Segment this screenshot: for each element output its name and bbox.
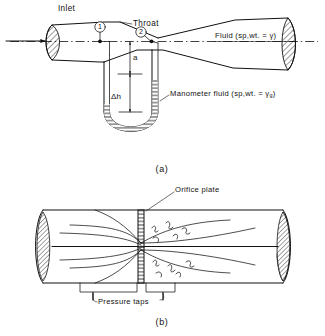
venturi-bottom-wall-diverging [152, 50, 288, 70]
turbulence-squiggle-l4 [156, 272, 162, 277]
turbulence-squiggle-u2 [166, 222, 173, 229]
manometer-fluid-leader-line [160, 95, 169, 101]
streamline-upper-1b [141, 220, 230, 243]
station-2-stem [145, 36, 150, 41]
figure-page: 1 2 Inlet Throat Fluid (sp,wt. = γ) [0, 0, 325, 336]
venturi-figure: 1 2 Inlet Throat Fluid (sp,wt. = γ) [6, 4, 318, 174]
turbulence-squiggle-l2 [168, 265, 175, 272]
venturi-bottom-wall-left [52, 60, 104, 62]
manometer-fluid-bend [104, 112, 158, 132]
orifice-plate-label: Orifice plate [175, 185, 219, 194]
station-1-number: 1 [98, 23, 102, 30]
pressure-taps-label: Pressure taps [98, 297, 149, 306]
turbulence-squiggle-u1 [152, 226, 158, 232]
venturi-bottom-wall-converging [104, 50, 152, 62]
manometer-fluid-right-column [152, 80, 157, 112]
manometer-fluid-left-column [104, 104, 109, 112]
figure-canvas: 1 2 Inlet Throat Fluid (sp,wt. = γ) [0, 0, 325, 336]
streamline-upper-3 [60, 233, 141, 245]
turbulence-squiggle-l5 [176, 272, 181, 277]
pipe-section-right-hatched [282, 18, 296, 70]
dimension-a-label: a [133, 53, 138, 62]
fluid-label: Fluid (sp,wt. = γ) [215, 31, 276, 40]
caption-a: (a) [156, 164, 169, 174]
inlet-label: Inlet [58, 4, 76, 13]
streamline-lower-3 [60, 248, 141, 260]
orifice-plate-leader-line [146, 192, 174, 211]
turbulence-squiggle-l3 [186, 261, 194, 267]
throat-label: Throat [133, 19, 159, 28]
streamline-lower-2b [141, 250, 255, 265]
station-2-number: 2 [139, 28, 143, 35]
caption-b: (b) [156, 317, 169, 327]
orifice-section-right-hatched-fix [277, 212, 290, 281]
streamline-upper-2b [141, 228, 255, 243]
turbulence-squiggle-u3 [182, 228, 190, 234]
turbulence-squiggle-u5 [173, 234, 178, 239]
orifice-figure: Orifice plate Pressure taps (b) [36, 185, 291, 327]
orifice-section-left-hatched [37, 212, 50, 281]
pressure-tap-bracket-left [80, 283, 93, 300]
dimension-delta-h-label: Δh [111, 92, 121, 101]
pressure-taps-leader-left [93, 294, 97, 302]
turbulence-squiggle-u4 [153, 237, 159, 242]
manometer-fluid-label: Manometer fluid (sp,wt. = γg) [170, 89, 276, 99]
turbulence-squiggle-l1 [153, 260, 159, 266]
streamline-lower-1b [141, 250, 230, 273]
manometer-fluid-label-close: ) [273, 89, 276, 98]
pressure-tap-bracket-right [163, 283, 175, 300]
manometer-fluid-label-main: Manometer fluid (sp,wt. = γ [170, 89, 269, 98]
